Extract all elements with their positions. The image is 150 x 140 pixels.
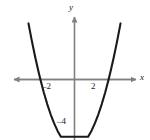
x-tick-label-negative-2: –2 [42,82,51,91]
graph-canvas [0,0,150,140]
x-axis-label: x [140,73,144,82]
y-tick-label-negative-4: –4 [57,117,66,126]
x-tick-label-positive-2: 2 [91,82,96,91]
parabola-figure: y x –2 2 –4 [0,0,150,140]
y-axis-label: y [69,3,73,12]
